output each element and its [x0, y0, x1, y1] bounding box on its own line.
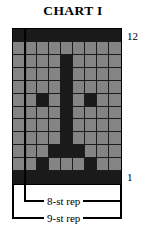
chart-cell — [25, 55, 37, 68]
chart-cell — [61, 171, 73, 184]
chart-cell — [109, 55, 121, 68]
chart-cell — [97, 29, 109, 42]
chart-cell — [49, 145, 61, 158]
chart-cell — [61, 158, 73, 171]
chart-cell — [37, 81, 49, 94]
chart-cell — [85, 55, 97, 68]
chart-grid — [13, 29, 121, 184]
chart-cell — [49, 81, 61, 94]
chart-cell — [25, 158, 37, 171]
outer-repeat-label: 9-st rep — [44, 213, 83, 224]
chart-cell — [73, 132, 85, 145]
chart-cell — [61, 132, 73, 145]
chart-cell — [49, 158, 61, 171]
repeat-guide-line — [24, 28, 26, 185]
chart-cell — [61, 145, 73, 158]
chart-cell — [25, 171, 37, 184]
chart-cell — [109, 29, 121, 42]
row-label-top: 12 — [127, 31, 138, 42]
chart-cell — [97, 158, 109, 171]
chart-cell — [49, 107, 61, 120]
chart-cell — [85, 68, 97, 81]
chart-cell — [109, 158, 121, 171]
chart-cell — [97, 81, 109, 94]
chart-cell — [85, 145, 97, 158]
chart-cell — [61, 29, 73, 42]
chart-cell — [37, 42, 49, 55]
chart-cell — [109, 94, 121, 107]
chart-cell — [25, 81, 37, 94]
chart-cell — [73, 119, 85, 132]
chart-cell — [73, 145, 85, 158]
chart-cell — [37, 145, 49, 158]
chart-cell — [37, 29, 49, 42]
chart-cell — [85, 81, 97, 94]
chart-cell — [25, 107, 37, 120]
chart-cell — [49, 68, 61, 81]
chart-cell — [73, 29, 85, 42]
chart-cell — [25, 145, 37, 158]
chart-cell — [97, 145, 109, 158]
chart-cell — [49, 94, 61, 107]
chart-cell — [109, 119, 121, 132]
chart-cell — [49, 29, 61, 42]
chart-cell — [25, 29, 37, 42]
chart-cell — [61, 42, 73, 55]
chart-cell — [37, 119, 49, 132]
chart-cell — [109, 68, 121, 81]
chart-cell — [73, 81, 85, 94]
chart-cell — [73, 94, 85, 107]
chart-cell — [25, 132, 37, 145]
chart-cell — [97, 55, 109, 68]
chart-cell — [85, 42, 97, 55]
chart-cell — [61, 119, 73, 132]
chart-cell — [97, 132, 109, 145]
chart-cell — [73, 158, 85, 171]
chart-cell — [37, 55, 49, 68]
chart-cell — [109, 171, 121, 184]
chart-cell — [109, 107, 121, 120]
chart-cell — [37, 171, 49, 184]
row-label-bottom: 1 — [127, 172, 133, 183]
inner-repeat-label: 8-st rep — [44, 196, 83, 207]
chart-cell — [25, 119, 37, 132]
chart-cell — [49, 55, 61, 68]
chart-cell — [61, 107, 73, 120]
chart-cell — [49, 171, 61, 184]
chart-cell — [109, 81, 121, 94]
chart-cell — [49, 119, 61, 132]
page-title: CHART I — [0, 3, 146, 19]
chart-cell — [25, 94, 37, 107]
chart-cell — [73, 42, 85, 55]
chart-grid-container — [12, 28, 122, 185]
chart-cell — [109, 42, 121, 55]
chart-cell — [25, 42, 37, 55]
chart-cell — [97, 119, 109, 132]
chart-cell — [61, 94, 73, 107]
chart-cell — [37, 94, 49, 107]
chart-cell — [109, 132, 121, 145]
chart-cell — [73, 171, 85, 184]
chart-cell — [97, 94, 109, 107]
chart-cell — [85, 132, 97, 145]
chart-cell — [61, 55, 73, 68]
chart-cell — [61, 68, 73, 81]
chart-cell — [73, 107, 85, 120]
chart-cell — [37, 158, 49, 171]
chart-cell — [49, 42, 61, 55]
chart-cell — [97, 42, 109, 55]
chart-cell — [85, 171, 97, 184]
chart-cell — [73, 55, 85, 68]
chart-cell — [73, 68, 85, 81]
chart-cell — [109, 145, 121, 158]
chart-cell — [25, 68, 37, 81]
chart-cell — [85, 29, 97, 42]
chart-cell — [49, 132, 61, 145]
chart-figure: CHART I 12 1 8-st rep 9-st rep — [0, 0, 146, 243]
chart-cell — [85, 119, 97, 132]
chart-cell — [85, 94, 97, 107]
chart-cell — [37, 68, 49, 81]
chart-cell — [97, 171, 109, 184]
chart-cell — [37, 132, 49, 145]
chart-cell — [85, 158, 97, 171]
